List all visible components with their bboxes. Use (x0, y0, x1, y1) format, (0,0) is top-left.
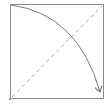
diagram-canvas (0, 0, 110, 105)
corner-marker (9, 98, 11, 100)
diagram-svg (0, 0, 110, 105)
